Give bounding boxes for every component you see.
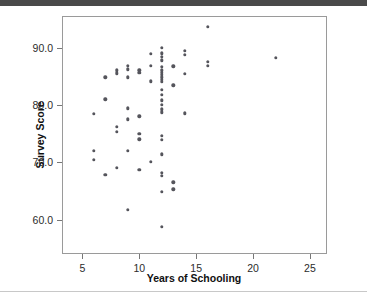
x-tick-mark	[196, 254, 197, 259]
x-tick-label: 20	[247, 262, 259, 274]
x-tick-mark	[82, 254, 83, 259]
x-tick-label: 25	[304, 262, 316, 274]
x-tick-label: 5	[80, 262, 86, 274]
scatter-chart: 60.070.080.090.0 510152025 Survey Score …	[0, 6, 367, 291]
x-tick-mark	[139, 254, 140, 259]
y-axis-title: Survey Score	[34, 101, 46, 168]
x-tick-label: 10	[133, 262, 145, 274]
x-tick-mark	[310, 254, 311, 259]
x-axis-ticks: 510152025	[0, 6, 367, 291]
bottom-divider-rule	[0, 291, 367, 292]
figure-page: 60.070.080.090.0 510152025 Survey Score …	[0, 0, 367, 301]
x-axis-title: Years of Schooling	[147, 272, 242, 284]
x-tick-mark	[253, 254, 254, 259]
